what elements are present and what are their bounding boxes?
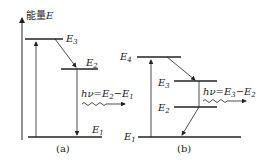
emission-label-a: hν=E2−E1 — [81, 88, 134, 101]
caption-a: (a) — [56, 143, 70, 154]
photon-wave-a — [82, 103, 106, 106]
label-e1-b: E1 — [123, 131, 136, 144]
diagram-b: E4 E3 E2 E1 hν=E3−E2 (b) — [119, 51, 256, 154]
emission-label-b: hν=E3−E2 — [203, 86, 256, 99]
label-e1-a: E1 — [91, 124, 104, 137]
caption-b: (b) — [177, 143, 191, 154]
decay-arrow-b2 — [182, 107, 199, 135]
photon-wave-b — [203, 100, 227, 103]
energy-level-diagram: 能量 E E3 E2 E1 hν=E2−E1 (a) E4 E3 E2 E1 — [0, 0, 262, 160]
label-e4-b: E4 — [119, 51, 132, 64]
label-e2-a: E2 — [85, 57, 98, 70]
axis-label-var: E — [45, 10, 54, 21]
decay-arrow-b1 — [167, 57, 195, 80]
axis-label-cn: 能量 — [26, 9, 46, 21]
diagram-svg: 能量 E E3 E2 E1 hν=E2−E1 (a) E4 E3 E2 E1 — [0, 0, 262, 160]
label-e2-b: E2 — [157, 102, 170, 115]
diagram-a: E3 E2 E1 hν=E2−E1 (a) — [25, 33, 134, 154]
label-e3-a: E3 — [65, 33, 78, 46]
energy-axis: 能量 E — [22, 9, 54, 140]
label-e3-b: E3 — [157, 77, 170, 90]
